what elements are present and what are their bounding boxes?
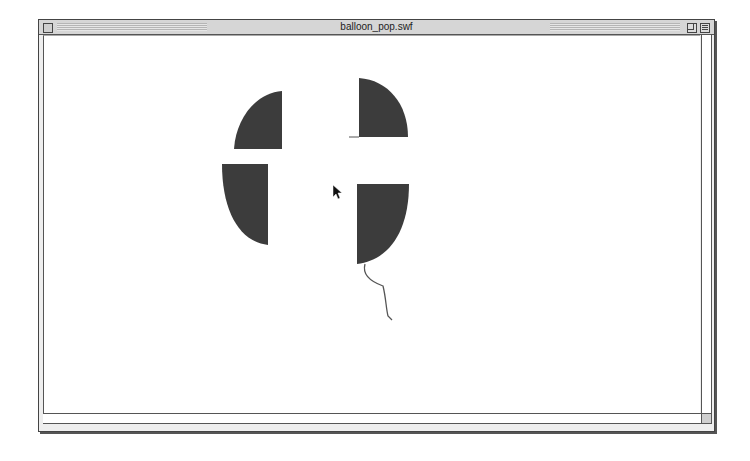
balloon-string — [364, 264, 392, 320]
balloon-piece-bottom-left[interactable] — [222, 164, 268, 245]
arrow-cursor-icon — [333, 185, 342, 199]
balloon-piece-bottom-right[interactable] — [357, 184, 409, 264]
balloon-piece-top-right[interactable] — [359, 78, 408, 137]
balloon-artwork — [0, 0, 750, 461]
balloon-piece-top-left[interactable] — [234, 91, 282, 149]
